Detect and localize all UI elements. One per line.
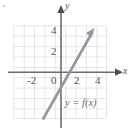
y-axis-label: y (65, 1, 69, 11)
y-tick-label-4: 4 (51, 25, 57, 36)
graph-canvas (0, 0, 133, 131)
x-tick-label-minus2: -2 (27, 75, 36, 86)
x-axis-label: x (123, 66, 127, 76)
x-axis-arrowhead (115, 69, 123, 76)
graph-figure: y x -2 0 2 4 2 4 y = f(x) (0, 0, 133, 131)
function-equation-label: y = f(x) (65, 98, 97, 109)
y-tick-label-2: 2 (51, 46, 57, 57)
x-tick-label-0: 0 (51, 75, 57, 86)
x-tick-label-4: 4 (95, 75, 101, 86)
y-axis (57, 5, 64, 128)
y-axis-arrowhead (57, 5, 64, 13)
x-tick-label-2: 2 (74, 75, 80, 86)
